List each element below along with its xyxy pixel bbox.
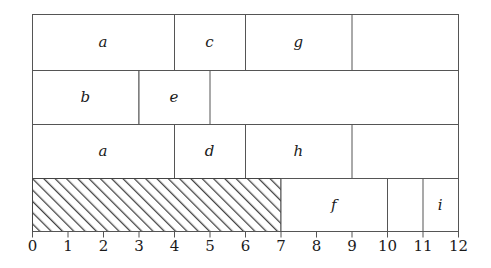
task-blocks-layer: acgbeadhfi <box>33 15 459 232</box>
task-block-label: c <box>205 33 214 51</box>
axis-tick-label: 4 <box>170 237 180 255</box>
axis-tick-label: 2 <box>99 237 109 255</box>
axis-tick-label: 5 <box>205 237 215 255</box>
axis-tick-label: 6 <box>241 237 251 255</box>
axis-tick-label: 3 <box>134 237 144 255</box>
task-block-label: i <box>438 196 443 214</box>
task-block-label: d <box>205 142 215 160</box>
axis-tick-label: 8 <box>312 237 322 255</box>
schedule-gantt-figure: acgbeadhfi 0123456789101112 <box>0 0 491 268</box>
task-block-label: g <box>293 33 303 51</box>
task-block-label: a <box>99 142 108 160</box>
axis-tick-labels-layer: 0123456789101112 <box>28 237 468 255</box>
hatched-block <box>33 179 282 232</box>
axis-tick-label: 9 <box>347 237 357 255</box>
axis-tick-label: 10 <box>378 237 397 255</box>
axis-tick-label: 0 <box>28 237 38 255</box>
axis-tick-label: 12 <box>449 237 468 255</box>
task-block-label: a <box>99 33 108 51</box>
task-block-label: h <box>293 142 303 160</box>
task-block-label: b <box>80 88 90 106</box>
task-block-label: e <box>170 88 179 106</box>
axis-tick-label: 11 <box>413 237 432 255</box>
schedule-chart-svg: acgbeadhfi 0123456789101112 <box>0 0 491 268</box>
axis-tick-label: 1 <box>63 237 73 255</box>
axis-tick-label: 7 <box>276 237 286 255</box>
